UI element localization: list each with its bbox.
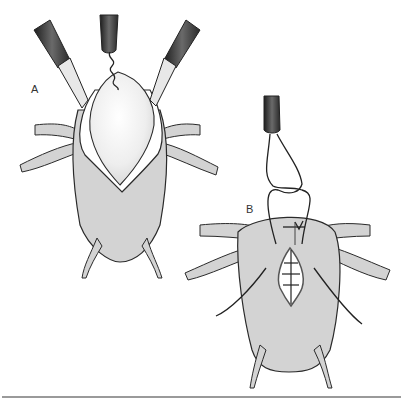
bottom-rule [2, 396, 401, 398]
panel-label-b: B [246, 203, 253, 215]
surgical-illustration: A B [0, 0, 403, 401]
panel-b [185, 96, 390, 388]
grasper-right-icon [150, 20, 200, 106]
grasper-left-icon [34, 20, 88, 108]
panel-a [20, 15, 218, 278]
knot-pusher-instrument-icon [264, 96, 280, 133]
panel-label-a: A [31, 83, 38, 95]
